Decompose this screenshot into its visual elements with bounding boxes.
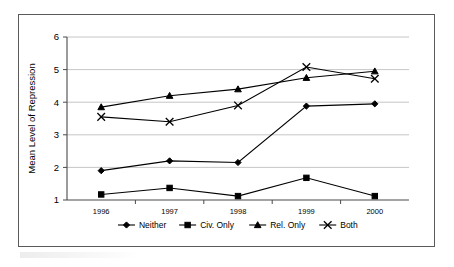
x-tick-label: 1998: [230, 207, 247, 216]
y-tick-label: 5: [54, 64, 59, 75]
series-both: [97, 63, 378, 125]
data-point-diamond: [98, 168, 104, 174]
series-rel-only: [98, 68, 378, 110]
y-tick-label: 2: [54, 162, 59, 173]
y-tick-label: 1: [54, 194, 59, 205]
legend-marker-square: [185, 222, 190, 227]
data-point-square: [235, 193, 240, 198]
y-tick-label: 6: [54, 31, 59, 42]
y-tick-label: 3: [54, 129, 59, 140]
data-point-diamond: [167, 158, 173, 164]
series-neither: [98, 101, 378, 174]
legend-label: Neither: [139, 220, 167, 230]
gridlines-group: [67, 37, 409, 167]
legend-item-neither[interactable]: Neither: [118, 220, 167, 230]
chart-legend: NeitherCiv. OnlyRel. OnlyBoth: [118, 220, 358, 230]
legend-item-civ-only[interactable]: Civ. Only: [179, 220, 235, 230]
line-chart: 123456 19961997199819992000 Mean Level o…: [19, 15, 436, 248]
series-group: [97, 63, 378, 199]
legend-label: Rel. Only: [270, 220, 306, 230]
legend-label: Civ. Only: [200, 220, 235, 230]
legend-marker-diamond: [123, 222, 129, 228]
legend-item-rel-only[interactable]: Rel. Only: [249, 220, 306, 230]
chart-frame: 123456 19961997199819992000 Mean Level o…: [18, 14, 435, 247]
y-tick-labels-group: 123456: [54, 31, 59, 205]
x-tick-label: 2000: [366, 207, 383, 216]
x-tick-marks-group: [135, 200, 340, 204]
legend-label: Both: [340, 220, 358, 230]
data-point-square: [167, 185, 172, 190]
y-tick-marks-group: [63, 37, 67, 200]
y-axis-title: Mean Level of Repression: [26, 63, 37, 173]
x-tick-labels-group: 19961997199819992000: [93, 207, 383, 216]
data-point-square: [304, 175, 309, 180]
data-point-square: [372, 193, 377, 198]
chart-plot-area: 123456 19961997199819992000 Mean Level o…: [19, 15, 434, 246]
legend-item-both[interactable]: Both: [319, 220, 358, 230]
x-tick-label: 1996: [93, 207, 110, 216]
page-artifact: [20, 252, 140, 258]
data-point-diamond: [372, 101, 378, 107]
x-tick-label: 1997: [161, 207, 178, 216]
y-tick-label: 4: [54, 97, 59, 108]
x-tick-label: 1999: [298, 207, 315, 216]
data-point-square: [99, 192, 104, 197]
series-civ-only: [99, 175, 378, 199]
